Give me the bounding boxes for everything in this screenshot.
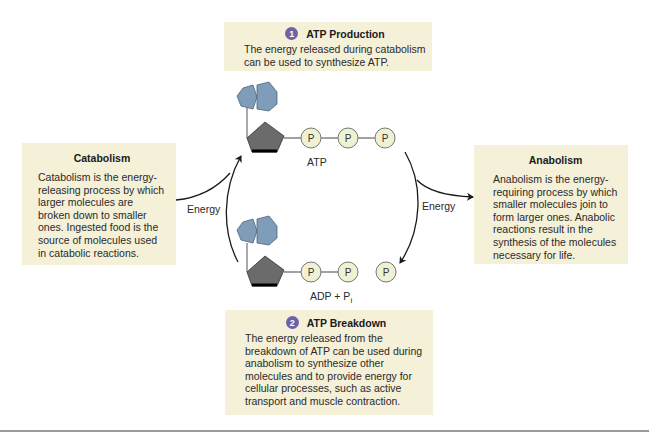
atp-label: ATP	[307, 156, 327, 168]
anabolism-energy-arrow	[417, 180, 473, 197]
atp-production-title: ATP Production	[306, 28, 384, 40]
phosphate-symbol: P	[345, 133, 352, 144]
atp-breakdown-title: ATP Breakdown	[307, 317, 387, 329]
adenine-pentagon-icon	[237, 85, 257, 109]
phosphate-symbol: P	[308, 267, 315, 278]
catabolism-title: Catabolism	[38, 152, 166, 164]
anabolism-text: Anabolism is the energy-requiring proces…	[493, 173, 618, 261]
atp-production-box: 1 ATP Production The energy released dur…	[224, 22, 432, 71]
ribose-pentagon-icon	[247, 122, 284, 152]
atp-production-text: The energy released during catabolism ca…	[244, 43, 426, 68]
phosphate-symbol: P	[345, 267, 352, 278]
adenine-hexagon-icon	[257, 216, 277, 245]
phosphate-symbol: P	[382, 133, 389, 144]
anabolism-title: Anabolism	[493, 154, 618, 166]
step-2-badge: 2	[286, 316, 299, 329]
atp-breakdown-box: 2 ATP Breakdown The energy released from…	[225, 310, 433, 415]
atp-molecule	[237, 82, 395, 152]
adp-label-text: ADP + P	[310, 290, 350, 302]
breakdown-arrow	[400, 152, 418, 263]
adenine-pentagon-icon	[237, 219, 257, 243]
adenine-hexagon-icon	[257, 82, 277, 111]
phosphate-symbol: P	[383, 267, 390, 278]
synthesis-arrow	[226, 156, 241, 262]
step-1-badge: 1	[285, 27, 298, 40]
atp-breakdown-text: The energy released from the breakdown o…	[245, 332, 427, 408]
catabolism-box: Catabolism Catabolism is the energy-rele…	[22, 143, 176, 265]
catabolism-energy-arrow	[176, 173, 230, 200]
adp-molecule	[237, 216, 396, 286]
adp-label: ADP + Pi	[310, 290, 352, 305]
ribose-pentagon-icon	[247, 256, 284, 286]
bottom-divider	[0, 430, 649, 432]
phosphate-symbol: P	[308, 133, 315, 144]
energy-label-left: Energy	[187, 203, 220, 215]
anabolism-box: Anabolism Anabolism is the energy-requir…	[474, 145, 628, 264]
energy-label-right: Energy	[422, 200, 455, 212]
catabolism-text: Catabolism is the energy-releasing proce…	[38, 171, 166, 259]
adp-subscript: i	[350, 296, 352, 305]
